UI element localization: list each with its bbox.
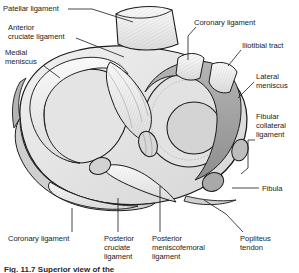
label-medial-meniscus: Medial meniscus (5, 48, 37, 66)
label-popliteus-tendon: Popliteus tendon (240, 234, 271, 252)
label-posterior-meniscofemoral: Posterior meniscofemoral ligament (152, 234, 205, 262)
label-anterior-cruciate: Anterior cruciate ligament (8, 23, 65, 41)
figure-caption: Fig. 11.7 Superior view of the (4, 265, 114, 273)
leader-lateral-meniscus (238, 82, 254, 98)
label-iliotibial-tract: Iliotibial tract (242, 41, 283, 50)
figure-container: Patellar ligamentAnterior cruciate ligam… (0, 0, 299, 273)
label-coronary-ligament-top: Coronary ligament (194, 18, 255, 27)
label-patellar-ligament: Patellar ligament (3, 4, 59, 13)
label-fibula: Fibula (262, 184, 282, 193)
patellar-ligament-shape (116, 7, 178, 50)
label-coronary-ligament-bottom: Coronary ligament (8, 234, 69, 243)
popliteus-tendon-shape (184, 196, 236, 205)
label-posterior-cruciate: Posterior cruciate ligament (104, 234, 134, 262)
label-lateral-meniscus: Lateral meniscus (256, 72, 288, 90)
label-fibular-collateral: Fibular collateral ligament (256, 112, 286, 140)
leader-iliotibial-tract (228, 50, 241, 66)
coronary-ligament-top-shape (176, 54, 204, 81)
